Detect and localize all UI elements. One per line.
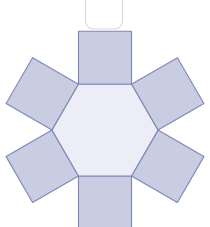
square-face-top: [79, 31, 132, 84]
rounded-rectangle-outline: [86, 0, 123, 29]
square-face-bottom: [79, 176, 132, 227]
hexagonal-prism-net-diagram: [0, 0, 210, 227]
figure-canvas: [0, 0, 210, 227]
